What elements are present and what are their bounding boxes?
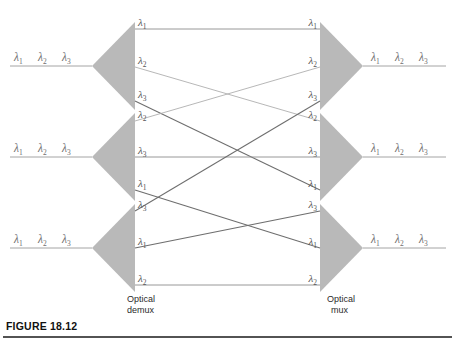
demux-caption: Optical demux (127, 294, 155, 315)
figure-caption: FIGURE 18.12 (6, 320, 77, 332)
figure-page: λ1λ2λ3λ2λ3λ1λ3λ1λ2λ1λ2λ3λ2λ3λ1λ3λ1λ2 λ1λ… (0, 0, 455, 345)
mux-caption-line1: Optical (327, 294, 355, 304)
demux-caption-line1: Optical (127, 294, 155, 304)
optical-mux-demux-diagram: λ1λ2λ3λ2λ3λ1λ3λ1λ2λ1λ2λ3λ2λ3λ1λ3λ1λ2 λ1λ… (0, 0, 455, 345)
mux-caption-line2: mux (331, 305, 349, 315)
demux-caption-line2: demux (127, 305, 155, 315)
canvas-background (0, 0, 455, 345)
